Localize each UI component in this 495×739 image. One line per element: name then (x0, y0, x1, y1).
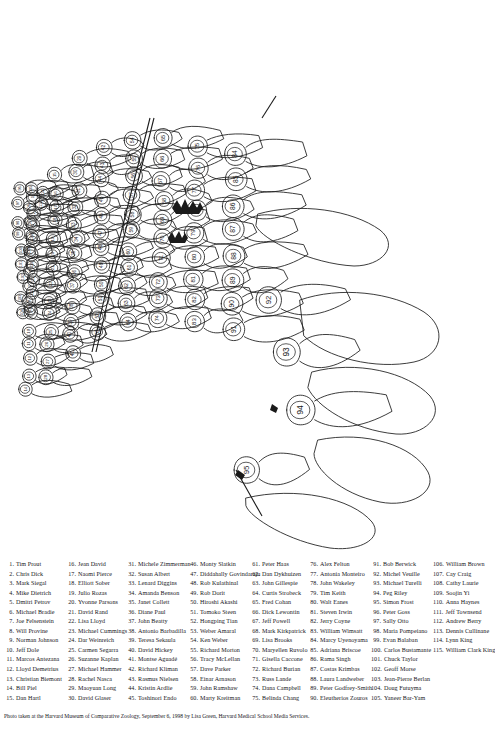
name-key-entry: 77.Antonia Monteiro (308, 570, 371, 580)
group-photo-outline-figure: 1234567891011121314151617181920212223242… (0, 0, 494, 560)
person-label-number: 78 (193, 206, 199, 213)
key-entry-number: 79. (308, 589, 318, 599)
key-entry-number: 68. (250, 627, 260, 637)
person-label-number: 95 (242, 465, 251, 474)
key-entry-number: 107. (433, 570, 444, 580)
person-label-number: 57 (128, 192, 134, 198)
name-key-entry: 28.Rachel Nasca (66, 675, 126, 685)
key-entry-number: 58. (188, 675, 198, 685)
person-label-number: 76 (195, 164, 201, 171)
name-key-entry: 101.Chuck Taylor (371, 655, 433, 665)
person-label-number: 110 (30, 262, 34, 268)
person-label-number: 94 (295, 405, 305, 415)
key-entry-name: Maryellen Ruvolo (260, 647, 308, 653)
key-entry-number: 16. (66, 560, 76, 570)
person-label-number: 90 (228, 300, 235, 308)
key-entry-number: 90. (308, 694, 318, 704)
key-entry-number: 80. (308, 598, 318, 608)
key-entry-number: 70. (250, 646, 260, 656)
key-entry-number: 8. (4, 627, 14, 637)
key-entry-name: Michael Bradie (14, 609, 55, 615)
key-entry-name: John Beatty (136, 618, 168, 624)
key-entry-name: Jeff Dole (14, 647, 39, 653)
key-entry-number: 32. (126, 570, 136, 580)
name-key-entry: 31.Michele Zimmerman (126, 560, 188, 570)
name-key-entry: 22.Lisa Lloyd (66, 617, 126, 627)
key-entry-number: 75. (250, 694, 260, 704)
person-label-number: 35 (71, 250, 76, 256)
key-entry-name: Marcy Uyenoyama (318, 637, 368, 643)
key-entry-number: 39. (126, 636, 136, 646)
person-label-number: 51 (98, 296, 103, 302)
key-entry-name: Soojin Yi (444, 590, 470, 596)
key-entry-name: Monty Slatkin (198, 561, 236, 567)
name-key-entry: 95.Simon Frost (371, 598, 433, 608)
name-key-entry: 82.Jerry Coyne (308, 617, 371, 627)
name-key-entry: 14.Bill Piel (4, 684, 66, 694)
key-entry-number: 2. (4, 570, 14, 580)
name-key-entry: 96.Peter Goss (371, 608, 433, 618)
key-entry-number: 55. (188, 646, 198, 656)
key-entry-number: 71. (250, 655, 260, 665)
name-key-entry: 1.Tim Prout (4, 560, 66, 570)
person-label-number: 52 (95, 313, 100, 319)
person-label-number: 43 (100, 162, 105, 168)
name-key-entry: 56.Tracy McLellan (188, 655, 250, 665)
person-label-number: 59 (128, 227, 134, 233)
key-entry-number: 27. (66, 665, 76, 675)
key-entry-number: 112. (433, 617, 444, 627)
key-entry-number: 14. (4, 684, 14, 694)
name-key-entry: 58.Einar Arnason (188, 675, 250, 685)
key-entry-number: 100. (371, 646, 382, 656)
key-entry-number: 64. (250, 589, 260, 599)
person-label-number: 46 (99, 213, 104, 219)
name-key-entry: 83.William Wimsatt (308, 627, 371, 637)
person-label-number: 107 (28, 218, 32, 224)
key-entry-name: Dan Dykhuizen (260, 571, 301, 577)
key-entry-name: Michele Zimmerman (136, 561, 191, 567)
key-entry-number: 67. (250, 617, 260, 627)
person-label-number: 63 (123, 300, 129, 306)
name-key-entry: 79.Tim Keith (308, 589, 371, 599)
name-key-entry: 99.Evan Balaban (371, 636, 433, 646)
key-entry-name: Richard Burian (260, 666, 300, 672)
key-entry-name: Marty Kreitman (198, 695, 240, 701)
name-key-entry: 13.Christian Biemont (4, 675, 66, 685)
person-label-number: 89 (229, 276, 236, 284)
name-key-entry: 102.Geoff Morse (371, 665, 433, 675)
key-entry-name: Naomi Pierce (76, 571, 112, 577)
key-entry-name: William Wimsatt (318, 628, 362, 634)
key-entry-name: Tracy McLellan (198, 656, 240, 662)
name-key-column: 46.Monty Slatkin47.Diddahally Govindaraj… (188, 560, 250, 703)
person-label-number: 91 (230, 325, 237, 333)
person-label-number: 61 (126, 264, 132, 270)
person-label-number: 66 (159, 156, 165, 162)
key-entry-number: 6. (4, 608, 14, 618)
name-key-entry: 15.Dan Hartl (4, 694, 66, 704)
key-entry-name: Curtis Strobeck (260, 590, 301, 596)
person-label-number: 74 (154, 315, 160, 321)
person-label-number: 18 (52, 217, 57, 222)
person-label-number: 48 (98, 244, 103, 250)
key-entry-number: 101. (371, 655, 382, 665)
person-label-number: 108 (30, 233, 34, 239)
person-label-number: 26 (44, 341, 49, 346)
name-key-entry: 71.Gisella Caccone (250, 655, 308, 665)
key-entry-name: Kristin Ardlie (136, 685, 173, 691)
key-entry-name: William Brown (444, 561, 485, 567)
key-entry-number: 36. (126, 608, 136, 618)
key-entry-name: Russ Lande (260, 676, 291, 682)
key-entry-number: 15. (4, 694, 14, 704)
person-label-number: 14 (23, 386, 28, 391)
name-key-entry: 65.Fred Cohan (250, 598, 308, 608)
key-entry-number: 5. (4, 598, 14, 608)
name-key-entry: 46.Monty Slatkin (188, 560, 250, 570)
person-label-number: 62 (123, 283, 129, 289)
key-entry-number: 111. (433, 608, 443, 618)
name-key-entry: 63.John Gillespie (250, 579, 308, 589)
key-entry-name: Ken Weber (198, 637, 228, 643)
name-key-entry: 85.Adriana Briscoe (308, 646, 371, 656)
key-entry-number: 26. (66, 655, 76, 665)
person-label-number: 106 (27, 204, 31, 210)
key-entry-number: 41. (126, 655, 136, 665)
